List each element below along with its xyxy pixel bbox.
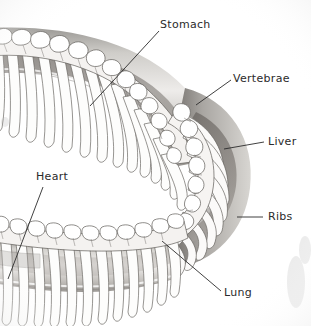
figure-vignette xyxy=(0,0,311,326)
label-stomach: Stomach xyxy=(160,18,211,31)
label-vertebrae: Vertebrae xyxy=(233,72,290,85)
label-liver: Liver xyxy=(268,135,297,148)
snake-skeleton-figure: Stomach Vertebrae Liver Ribs Heart Lung xyxy=(0,0,311,326)
label-ribs: Ribs xyxy=(268,210,293,223)
label-heart: Heart xyxy=(36,170,69,183)
label-lung: Lung xyxy=(224,286,252,299)
